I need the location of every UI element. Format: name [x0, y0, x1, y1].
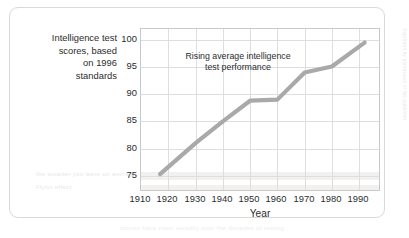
y-axis-title-line: scores, based — [24, 45, 117, 58]
y-axis-tick-label: 100 — [115, 34, 137, 43]
y-axis-title-line: on 1996 — [24, 57, 117, 70]
y-axis-title: Intelligence test scores, based on 1996 … — [24, 32, 117, 82]
y-axis-tick-label: 80 — [115, 143, 137, 152]
y-axis-tick-label: 85 — [115, 115, 137, 124]
data-series-line — [141, 29, 380, 191]
scan-ghost-edge-text: Reprinted by permission of the publisher — [399, 28, 407, 158]
y-axis-title-line: Intelligence test — [24, 32, 117, 45]
x-axis-title: Year — [140, 208, 380, 219]
y-axis-title-line: standards — [24, 70, 117, 83]
scan-ghost-text: Flynn effect — [36, 184, 72, 190]
y-axis-tick-label: 95 — [115, 61, 137, 70]
y-axis-tick-label: 75 — [115, 170, 137, 179]
y-axis-tick-label: 90 — [115, 88, 137, 97]
figure-card: the smarter you were on average Flynn ef… — [9, 7, 385, 218]
plot-area: Rising average intelligence test perform… — [140, 28, 380, 191]
scan-ghost-text: scores have risen steadily over the deca… — [120, 225, 284, 231]
x-axis-tick-label: 1990 — [341, 194, 375, 203]
y-axis-tick-labels: 7580859095100 — [113, 28, 137, 191]
series-polyline — [160, 43, 365, 174]
x-axis-tick-labels: 191019201930194019501960197019801990 — [140, 194, 380, 207]
